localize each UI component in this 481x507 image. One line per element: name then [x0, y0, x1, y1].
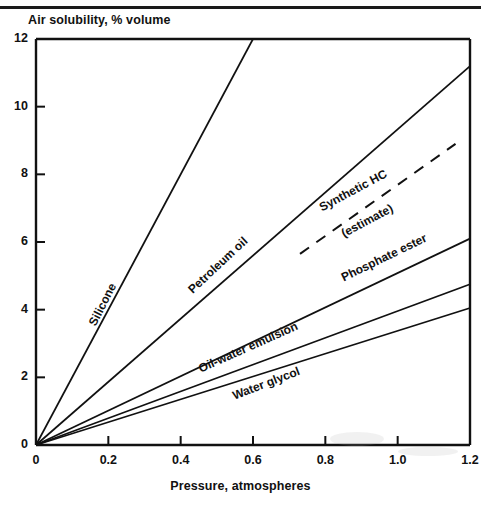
- x-tick-label: 0.6: [230, 453, 276, 467]
- y-tick-label: 2: [2, 369, 28, 383]
- x-tick-label: 0.2: [85, 453, 131, 467]
- x-tick-label: 0.4: [158, 453, 204, 467]
- series-line: [36, 39, 253, 445]
- y-tick-label: 6: [2, 234, 28, 248]
- x-tick-label: 1.2: [447, 453, 481, 467]
- x-axis-title: Pressure, atmospheres: [0, 479, 481, 493]
- y-axis-ticks: [36, 107, 45, 378]
- chart-figure: Air solubility, % volume 024681012 00.20…: [0, 0, 481, 507]
- series-line: [36, 308, 470, 445]
- y-tick-label: 10: [2, 99, 28, 113]
- scan-smudge: [330, 432, 384, 446]
- x-tick-label: 0.8: [302, 453, 348, 467]
- x-tick-label: 0: [13, 453, 59, 467]
- plot-area: [0, 0, 481, 507]
- y-tick-label: 0: [2, 437, 28, 451]
- y-tick-label: 8: [2, 166, 28, 180]
- y-tick-label: 12: [2, 31, 28, 45]
- y-tick-label: 4: [2, 302, 28, 316]
- scan-smudge: [398, 447, 458, 456]
